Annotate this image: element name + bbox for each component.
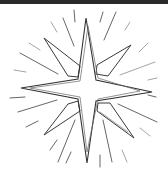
diagonal-points bbox=[44, 38, 134, 138]
main-star bbox=[21, 18, 152, 163]
lower-left-point bbox=[44, 101, 80, 135]
upper-right-point bbox=[96, 45, 131, 76]
star-illustration bbox=[0, 0, 168, 175]
lower-right-point bbox=[97, 103, 134, 138]
upper-left-point bbox=[44, 38, 80, 77]
